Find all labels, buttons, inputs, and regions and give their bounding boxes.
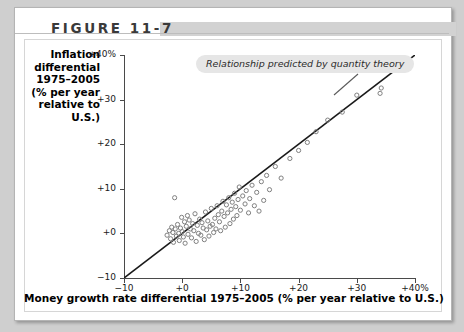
y-axis-title-line-6: U.S.): [26, 111, 100, 124]
scatter-points: [124, 55, 415, 278]
scatter-point: [224, 203, 228, 207]
scatter-point: [231, 217, 235, 221]
scatter-point: [267, 188, 271, 192]
quantity-theory-callout: Relationship predicted by quantity theor…: [196, 55, 414, 73]
scatter-point: [217, 220, 221, 224]
scatter-point: [180, 230, 184, 234]
scatter-point: [193, 212, 197, 216]
scatter-point: [297, 148, 301, 152]
x-axis-title: Money growth rate differential 1975–2005…: [24, 292, 440, 304]
scatter-point: [195, 223, 199, 227]
scatter-point: [230, 200, 234, 204]
scatter-point: [326, 118, 330, 122]
scatter-point: [207, 234, 211, 238]
x-axis-line: [124, 278, 416, 279]
scatter-point: [219, 229, 223, 233]
scatter-point: [288, 156, 292, 160]
header-divider: [15, 33, 449, 34]
scatter-point: [177, 238, 181, 242]
scatter-point: [203, 210, 207, 214]
scatter-point: [200, 221, 204, 225]
scatter-point: [213, 216, 217, 220]
scatter-point: [173, 227, 177, 231]
scatter-point: [221, 199, 225, 203]
scatter-point: [279, 176, 283, 180]
scatter-point: [174, 234, 178, 238]
y-axis-title-line-2: differential: [26, 61, 100, 74]
scatter-point: [165, 233, 169, 237]
scatter-point: [259, 180, 263, 184]
scatter-point: [171, 240, 175, 244]
scatter-point: [216, 213, 220, 217]
callout-leader-line: [330, 72, 360, 98]
y-axis-title: Inflation differential 1975–2005 (% per …: [26, 48, 100, 124]
scatter-point: [273, 164, 277, 168]
scatter-point: [250, 183, 254, 187]
scatter-point: [209, 206, 213, 210]
scatter-point: [257, 209, 261, 213]
scatter-point: [314, 130, 318, 134]
scatter-point: [185, 213, 189, 217]
scatter-point: [232, 191, 236, 195]
figure-root: FIGURE 11-7 Inflation differential 1975–…: [0, 0, 464, 332]
scatter-point: [248, 197, 252, 201]
scatter-point: [173, 196, 177, 200]
scatter-point: [184, 224, 188, 228]
scatter-point: [189, 236, 193, 240]
scatter-point: [305, 140, 309, 144]
scatter-point: [183, 241, 187, 245]
scatter-point: [202, 238, 206, 242]
scatter-point: [237, 185, 241, 189]
scatter-point: [206, 219, 210, 223]
scatter-point: [186, 232, 190, 236]
y-tick-label: +20: [76, 138, 116, 148]
y-tick-label: −10: [76, 272, 116, 282]
scatter-point: [187, 218, 191, 222]
scatter-point: [228, 221, 232, 225]
scatter-point: [194, 239, 198, 243]
scatter-point: [378, 91, 382, 95]
scatter-point: [379, 86, 383, 90]
scatter-point: [215, 204, 219, 208]
scatter-point: [225, 211, 229, 215]
scatter-point: [252, 204, 256, 208]
scatter-point: [180, 215, 184, 219]
scatter-point: [241, 194, 245, 198]
scatter-point: [192, 229, 196, 233]
scatter-point: [227, 196, 231, 200]
figure-header: FIGURE 11-7: [15, 8, 449, 34]
scatter-point: [222, 214, 226, 218]
y-tick-label: +40%: [76, 49, 116, 59]
scatter-point: [246, 211, 250, 215]
scatter-point: [229, 207, 233, 211]
scatter-point: [238, 208, 242, 212]
scatter-point: [243, 202, 247, 206]
y-tick-label: +30: [76, 94, 116, 104]
scatter-point: [234, 205, 238, 209]
y-tick-label: +10: [76, 183, 116, 193]
scatter-point: [191, 221, 195, 225]
scatter-point: [182, 220, 186, 224]
scatter-point: [220, 209, 224, 213]
scatter-point: [205, 228, 209, 232]
scatter-point: [244, 188, 248, 192]
y-axis-title-line-3: 1975–2005: [26, 73, 100, 86]
y-tick-label: +0: [76, 227, 116, 237]
scatter-point: [214, 227, 218, 231]
scatter-point: [236, 197, 240, 201]
scatter-point: [223, 225, 227, 229]
scatter-point: [181, 235, 185, 239]
scatter-point: [340, 110, 344, 114]
scatter-point: [262, 198, 266, 202]
scatter-point: [235, 213, 239, 217]
scatter-point: [255, 190, 259, 194]
scatter-point: [264, 173, 268, 177]
